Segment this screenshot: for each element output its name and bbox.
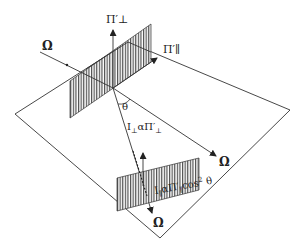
pi-par-label: Π′∥ xyxy=(163,43,180,56)
omega-right-label: Ω xyxy=(219,155,230,169)
omega-bottom-label: Ω xyxy=(153,216,164,230)
i-perp-label: I⊥αΠ′⊥ xyxy=(127,121,162,135)
incident-beam-dot xyxy=(66,64,68,66)
scattering-diagram: Π′⊥ Π′∥ Ω Ω Ω θ I⊥αΠ′⊥ I∥αΠ′∥cos2 θ xyxy=(0,0,299,251)
scattering-plane xyxy=(15,42,290,238)
theta-label: θ xyxy=(122,101,128,112)
omega-incident-label: Ω xyxy=(42,39,53,53)
pi-perp-label: Π′⊥ xyxy=(106,13,128,26)
